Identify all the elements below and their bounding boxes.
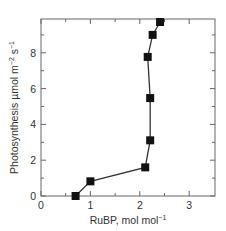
x-tick-label: 2: [137, 199, 143, 211]
x-tick-label: 3: [186, 199, 192, 211]
square-marker: [144, 53, 152, 61]
square-marker: [146, 136, 154, 144]
y-tick-label: 4: [30, 118, 36, 130]
axis-ticks: [41, 19, 215, 196]
y-tick-label: 8: [30, 47, 36, 59]
y-tick-label: 0: [30, 190, 36, 202]
square-marker: [141, 163, 149, 171]
square-marker: [146, 94, 154, 102]
square-marker: [72, 192, 80, 200]
y-tick-label: 6: [30, 83, 36, 95]
chart: 012302468 RuBP, mol mol−1 Photosynthesis…: [0, 0, 226, 231]
y-axis-label: Photosynthesis µmol m−2 s−1: [8, 41, 20, 174]
data-series: [72, 18, 164, 200]
square-marker: [86, 177, 94, 185]
plot-border: [41, 19, 215, 196]
tick-labels: 012302468: [30, 47, 192, 211]
x-axis-label: RuBP, mol mol−1: [90, 214, 167, 226]
x-tick-label: 0: [38, 199, 44, 211]
plot-frame: [41, 19, 215, 196]
y-tick-label: 2: [30, 154, 36, 166]
square-marker: [149, 31, 157, 39]
x-tick-label: 1: [87, 199, 93, 211]
square-marker: [156, 18, 164, 26]
